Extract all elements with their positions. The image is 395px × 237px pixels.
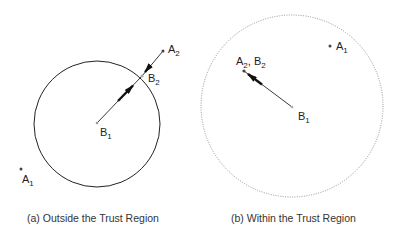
panel-b: A2, B2 B1 A1 (b) Within the Trust Region — [201, 15, 383, 224]
label-b1: B1 — [298, 110, 310, 125]
point-a1 — [20, 168, 23, 171]
label-b2: B2 — [148, 72, 160, 87]
panel-a: A2 B2 B1 A1 (a) Outside the Trust Region — [20, 43, 181, 224]
point-a2 — [162, 50, 165, 53]
point-b2 — [140, 74, 143, 77]
label-a2: A2 — [168, 43, 180, 58]
label-b1: B1 — [100, 126, 112, 141]
trust-region-diagram: A2 B2 B1 A1 (a) Outside the Trust Region… — [0, 0, 395, 237]
caption-a: (a) Outside the Trust Region — [27, 212, 159, 224]
point-a1 — [329, 45, 332, 48]
step-arrow — [118, 86, 133, 102]
label-a2-b2: A2, B2 — [236, 55, 266, 70]
label-a1: A1 — [336, 40, 348, 55]
caption-b: (b) Within the Trust Region — [231, 212, 356, 224]
point-b1 — [291, 106, 294, 109]
point-b1 — [96, 122, 99, 125]
label-a1: A1 — [22, 173, 34, 188]
step-arrow — [248, 74, 262, 85]
